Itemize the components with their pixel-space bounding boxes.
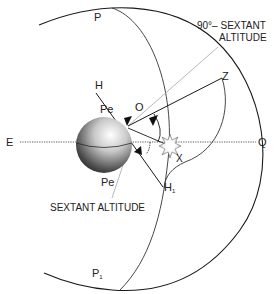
label-zenith: Z bbox=[222, 70, 229, 82]
sextant-altitude-arc bbox=[146, 142, 150, 154]
label-zenith-distance-line2: ALTITUDE bbox=[219, 32, 267, 43]
zenith-distance-arrow-icon bbox=[149, 115, 158, 126]
label-sextant-altitude: SEXTANT ALTITUDE bbox=[50, 202, 145, 213]
label-equator-q: Q bbox=[258, 136, 267, 148]
label-east: E bbox=[6, 136, 13, 148]
label-zenith-distance-line1: 90°– SEXTANT bbox=[197, 20, 266, 31]
label-pe-top: Pe bbox=[100, 103, 113, 115]
label-pole-north: P bbox=[94, 11, 101, 23]
label-pe-bottom: Pe bbox=[101, 176, 114, 188]
label-observer: O bbox=[135, 101, 144, 113]
label-pole-south: P1 bbox=[92, 267, 103, 280]
label-horizon-top: H bbox=[95, 79, 103, 91]
celestial-sphere-diagram: P P1 Z H H1 O E Q X Pe Pe 90°– SEXTANT A… bbox=[0, 0, 276, 294]
vertical-circle bbox=[164, 78, 225, 188]
observer-star-line bbox=[128, 128, 170, 146]
label-star: X bbox=[176, 153, 183, 164]
celestial-sphere-outline bbox=[39, 8, 263, 291]
label-horizon-bottom: H1 bbox=[164, 181, 176, 194]
